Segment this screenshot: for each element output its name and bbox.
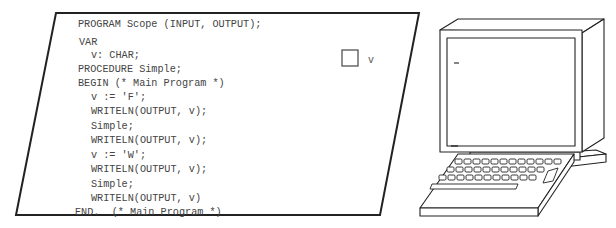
code-line: v := 'F'; (91, 93, 146, 103)
scope-diagram: PROGRAM Scope (INPUT, OUTPUT); VAR v: CH… (0, 0, 616, 228)
code-line: v: CHAR; (91, 51, 140, 61)
program-panel-border (16, 13, 419, 215)
code-line: WRITELN(OUTPUT, v); (91, 107, 207, 117)
code-line: WRITELN(OUTPUT, v) (91, 194, 201, 204)
code-line: VAR (79, 38, 97, 48)
code-line: Simple; (91, 180, 134, 190)
key-row-3 (439, 175, 536, 180)
code-line: Simple; (91, 122, 134, 132)
key-row-2 (447, 167, 544, 172)
monitor-side (582, 19, 604, 152)
memory-cell-label: v (368, 55, 374, 66)
code-line: WRITELN(OUTPUT, v); (91, 136, 207, 146)
monitor-screen (447, 38, 575, 146)
memory-cell-box (342, 50, 358, 66)
code-line: WRITELN(OUTPUT, v); (91, 165, 207, 175)
code-line: END. (* Main Program *) (75, 208, 222, 218)
code-line: PROGRAM Scope (INPUT, OUTPUT); (78, 20, 261, 30)
code-line: BEGIN (* Main Program *) (78, 79, 225, 89)
code-line: v := 'W'; (91, 151, 146, 161)
code-line: PROCEDURE Simple; (78, 65, 182, 75)
space-bar (430, 184, 518, 189)
keyboard-front (420, 208, 538, 216)
